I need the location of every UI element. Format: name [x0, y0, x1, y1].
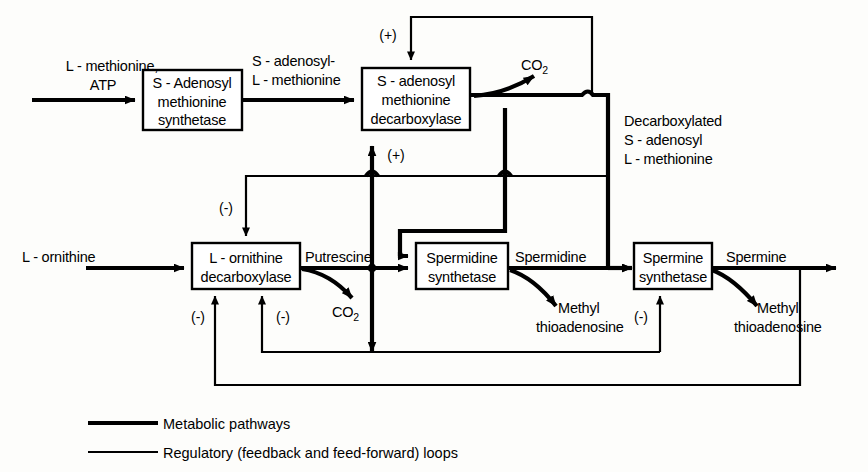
enzyme-label-sam-synthetase-line3: synthetase	[158, 112, 226, 128]
sign-minus-ornithine-top: (-)	[219, 200, 233, 216]
legend-label-regulatory: Regulatory (feedback and feed-forward) l…	[163, 445, 458, 461]
metabolite-label-methylthioadenosine-a-line2: thioadenosine	[536, 319, 624, 335]
metabolite-label-sam-line1: S - adenosyl-	[252, 53, 335, 69]
metabolite-label-decarboxylated-line1: Decarboxylated	[624, 113, 722, 129]
metabolite-label-methionine-line1: L - methionine,	[66, 58, 158, 74]
legend-label-metabolic: Metabolic pathways	[163, 416, 290, 432]
metabolite-label-ornithine: L - ornithine	[22, 249, 96, 265]
metabolite-label-putrescine: Putrescine	[305, 249, 372, 265]
enzyme-label-sam-synthetase-line1: S - Adenosyl	[152, 75, 231, 91]
metabolite-label-co2-mid: CO2	[332, 304, 359, 323]
path-decarboxylase-to-spermine-synthetase	[470, 92, 608, 269]
enzyme-label-sam-decarboxylase-line2: methionine	[382, 92, 451, 108]
metabolite-label-methylthioadenosine-b-line1: Methyl	[757, 300, 799, 316]
arrow-methylthioadenosine-spermidine	[510, 270, 556, 306]
enzyme-label-sam-synthetase-line2: methionine	[158, 94, 227, 110]
sign-minus-spermine: (-)	[634, 309, 648, 325]
enzyme-label-sam-decarboxylase-line1: S - adenosyl	[377, 73, 455, 89]
enzyme-label-spermidine-synthetase-line2: synthetase	[428, 269, 496, 285]
arrow-co2-release-ornithine-decarboxylase	[302, 269, 352, 298]
metabolite-label-spermine: Spermine	[726, 249, 787, 265]
enzyme-label-ornithine-decarboxylase-line2: decarboxylase	[201, 269, 292, 285]
enzyme-label-sam-decarboxylase-line3: decarboxylase	[371, 111, 462, 127]
metabolite-label-methylthioadenosine-b-line2: thioadenosine	[734, 319, 822, 335]
pathway-diagram: S - Adenosyl methionine synthetase S - a…	[0, 0, 868, 472]
sign-plus-top: (+)	[379, 27, 397, 43]
loop-minus-into-ornithine-decarboxylase-top	[246, 176, 608, 236]
metabolite-label-methionine-line2: ATP	[90, 77, 117, 93]
arrow-dcsam-into-spermidine-synthetase	[400, 252, 408, 256]
metabolite-label-decarboxylated-line3: L - methionine	[624, 151, 713, 167]
metabolite-label-co2-top: CO2	[521, 57, 548, 76]
enzyme-label-spermidine-synthetase-line1: Spermidine	[426, 250, 497, 266]
metabolite-label-decarboxylated-line2: S - adenosyl	[624, 132, 702, 148]
diagram-canvas: S - Adenosyl methionine synthetase S - a…	[0, 0, 868, 472]
enzyme-label-spermine-synthetase-line1: Spermine	[643, 250, 704, 266]
metabolite-label-sam-line2: L - methionine	[252, 72, 341, 88]
sign-minus-ornithine-bottom-left: (-)	[191, 309, 205, 325]
enzyme-label-spermine-synthetase-line2: synthetase	[639, 269, 707, 285]
metabolite-label-spermidine: Spermidine	[515, 249, 586, 265]
metabolite-label-methylthioadenosine-a-line1: Methyl	[558, 300, 600, 316]
sign-minus-ornithine-bottom-right: (-)	[276, 309, 290, 325]
sign-plus-below-decarboxylase: (+)	[387, 147, 405, 163]
arrow-methylthioadenosine-spermine	[712, 270, 757, 306]
enzyme-label-ornithine-decarboxylase-line1: L - ornithine	[209, 250, 283, 266]
